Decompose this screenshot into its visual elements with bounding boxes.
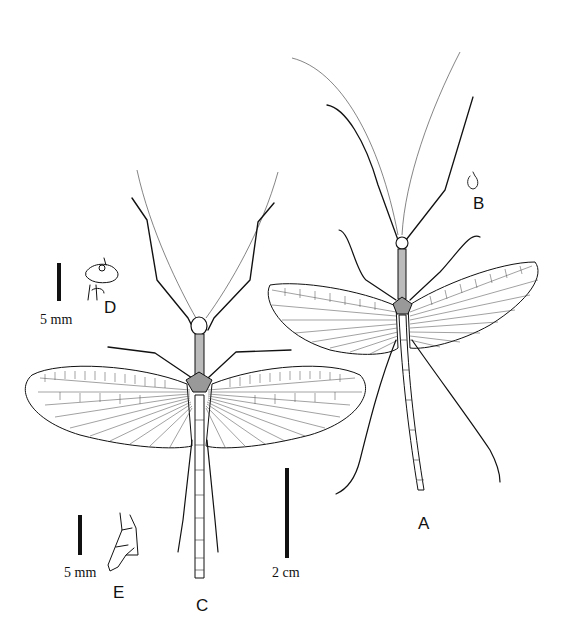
detail-b-drawing xyxy=(468,172,478,189)
specimen-c-drawing xyxy=(25,170,365,578)
panel-label-e: E xyxy=(113,584,124,601)
panel-label-b: B xyxy=(473,195,484,212)
detail-e-drawing xyxy=(108,513,138,571)
panel-label-c: C xyxy=(196,597,208,614)
panel-label-a: A xyxy=(418,515,429,532)
scale-label-d: 5 mm xyxy=(40,313,72,327)
detail-d-drawing xyxy=(86,258,118,300)
scale-bar-e xyxy=(78,515,82,555)
scale-bar-d xyxy=(57,263,61,301)
specimen-drawings xyxy=(0,0,567,641)
scale-bar-main xyxy=(285,468,289,558)
scale-label-e: 5 mm xyxy=(64,566,96,580)
scale-label-main: 2 cm xyxy=(272,566,300,580)
figure-plate: B D A E C 5 mm 5 mm 2 cm xyxy=(0,0,567,641)
panel-label-d: D xyxy=(104,299,116,316)
